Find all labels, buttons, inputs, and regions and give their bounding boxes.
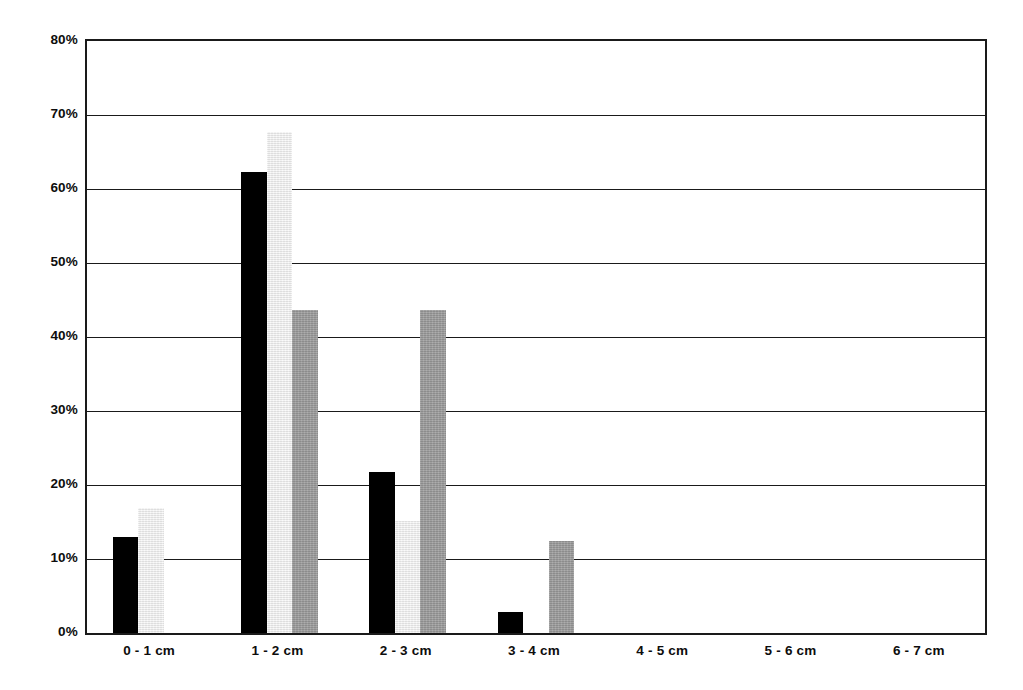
y-tick-label: 50% [8,254,78,269]
bar [138,508,164,633]
x-tick-label: 5 - 6 cm [765,643,817,658]
gridline [87,115,985,116]
gridline [87,189,985,190]
bar [420,310,446,633]
x-tick-label: 3 - 4 cm [508,643,560,658]
bar [292,310,318,633]
y-tick-label: 60% [8,180,78,195]
bar-chart: 0%10%20%30%40%50%60%70%80% 0 - 1 cm1 - 2… [0,0,1023,690]
x-tick-label: 6 - 7 cm [893,643,945,658]
bar [113,537,139,633]
bar [549,541,575,633]
y-tick-label: 20% [8,476,78,491]
bar [498,612,524,633]
y-tick-label: 0% [8,624,78,639]
bar [267,132,293,633]
y-axis: 0%10%20%30%40%50%60%70%80% [0,39,78,635]
bar [241,172,267,633]
y-tick-label: 10% [8,550,78,565]
gridline [87,559,985,560]
gridline [87,485,985,486]
gridline [87,337,985,338]
x-axis: 0 - 1 cm1 - 2 cm2 - 3 cm3 - 4 cm4 - 5 cm… [85,643,987,683]
x-tick-label: 0 - 1 cm [123,643,175,658]
gridline [87,411,985,412]
bar [369,472,395,633]
bar [395,521,421,633]
y-tick-label: 40% [8,328,78,343]
x-tick-label: 1 - 2 cm [251,643,303,658]
gridline [87,263,985,264]
x-tick-label: 2 - 3 cm [380,643,432,658]
x-tick-label: 4 - 5 cm [636,643,688,658]
y-tick-label: 70% [8,106,78,121]
y-tick-label: 80% [8,32,78,47]
y-tick-label: 30% [8,402,78,417]
plot-area [85,39,987,635]
